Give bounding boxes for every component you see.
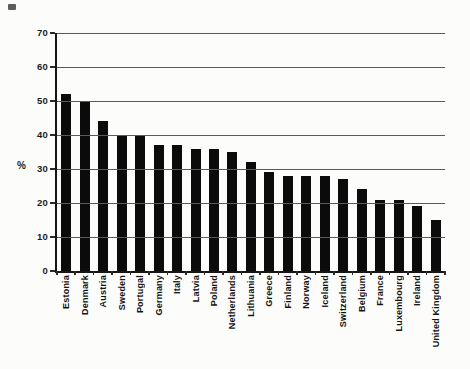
bar-chart-figure: % 010203040506070 EstoniaDenmarkAustriaS… <box>0 0 470 369</box>
y-tick-label-40: 40 <box>0 129 48 141</box>
category-label-lithuania: Lithuania <box>246 275 256 317</box>
category-label-united-kingdom: United Kingdom <box>431 275 441 347</box>
bar-slot <box>334 33 352 271</box>
bar-slot <box>131 33 149 271</box>
y-tick-60 <box>50 66 55 68</box>
bar-italy <box>172 145 182 271</box>
category-label-latvia: Latvia <box>191 275 201 302</box>
y-tick-label-10: 10 <box>0 231 48 243</box>
bar-slot <box>260 33 278 271</box>
y-tick-label-0: 0 <box>0 265 48 277</box>
bar-slot <box>57 33 75 271</box>
gridline-60 <box>57 67 445 68</box>
category-slot: Lithuania <box>242 275 260 317</box>
category-slot: Ireland <box>408 275 426 306</box>
bar-belgium <box>357 189 367 271</box>
gridline-70 <box>57 33 445 34</box>
category-slot: Greece <box>260 275 278 307</box>
bar-slot <box>353 33 371 271</box>
bar-slot <box>94 33 112 271</box>
bar-slot <box>205 33 223 271</box>
y-tick-0 <box>50 270 55 272</box>
bar-france <box>375 200 385 271</box>
category-label-belgium: Belgium <box>357 275 367 312</box>
bar-slot <box>371 33 389 271</box>
category-slot: Luxembourg <box>389 275 407 332</box>
category-label-austria: Austria <box>98 275 108 307</box>
category-slot: United Kingdom <box>426 275 444 347</box>
bar-slot <box>75 33 93 271</box>
category-slot: Germany <box>149 275 167 315</box>
category-slot: Sweden <box>112 275 130 310</box>
category-label-switzerland: Switzerland <box>338 275 348 327</box>
bar-ireland <box>412 206 422 271</box>
category-slot: Italy <box>168 275 186 294</box>
plot-area <box>55 33 445 273</box>
bar-slot <box>112 33 130 271</box>
bar-denmark <box>80 101 90 271</box>
category-slot: Switzerland <box>334 275 352 327</box>
bar-slot <box>389 33 407 271</box>
bar-slot <box>279 33 297 271</box>
gridline-30 <box>57 169 445 170</box>
y-tick-40 <box>50 134 55 136</box>
bar-slot <box>168 33 186 271</box>
gridline-40 <box>57 135 445 136</box>
bar-slot <box>223 33 241 271</box>
category-label-sweden: Sweden <box>117 275 127 310</box>
y-tick-10 <box>50 236 55 238</box>
category-label-poland: Poland <box>209 275 219 306</box>
bars-container <box>57 33 445 271</box>
category-slot: Latvia <box>186 275 204 302</box>
scan-artifact-mark <box>8 4 16 10</box>
y-tick-label-20: 20 <box>0 197 48 209</box>
bar-lithuania <box>246 162 256 271</box>
bar-slot <box>408 33 426 271</box>
bar-slot <box>186 33 204 271</box>
gridline-50 <box>57 101 445 102</box>
bar-switzerland <box>338 179 348 271</box>
bar-united-kingdom <box>431 220 441 271</box>
category-slot: Iceland <box>316 275 334 307</box>
y-tick-70 <box>50 32 55 34</box>
y-tick-label-70: 70 <box>0 27 48 39</box>
bar-poland <box>209 149 219 271</box>
category-label-france: France <box>375 275 385 306</box>
category-slot: Estonia <box>57 275 75 309</box>
bar-slot <box>242 33 260 271</box>
category-label-estonia: Estonia <box>61 275 71 309</box>
category-label-denmark: Denmark <box>80 275 90 315</box>
category-label-italy: Italy <box>172 275 182 294</box>
category-slot: Belgium <box>353 275 371 312</box>
y-tick-label-30: 30 <box>0 163 48 175</box>
category-label-luxembourg: Luxembourg <box>394 275 404 332</box>
bar-slot <box>297 33 315 271</box>
y-axis-labels: 010203040506070 <box>0 33 48 271</box>
category-label-ireland: Ireland <box>412 275 422 306</box>
category-slot: Denmark <box>75 275 93 315</box>
bar-norway <box>301 176 311 271</box>
bar-austria <box>98 121 108 271</box>
category-label-finland: Finland <box>283 275 293 308</box>
bar-germany <box>154 145 164 271</box>
category-label-greece: Greece <box>264 275 274 307</box>
x-axis-labels: EstoniaDenmarkAustriaSwedenPortugalGerma… <box>57 275 445 369</box>
bar-latvia <box>191 149 201 271</box>
gridline-20 <box>57 203 445 204</box>
gridline-10 <box>57 237 445 238</box>
y-tick-50 <box>50 100 55 102</box>
y-tick-20 <box>50 202 55 204</box>
y-tick-30 <box>50 168 55 170</box>
category-label-portugal: Portugal <box>135 275 145 313</box>
category-slot: Portugal <box>131 275 149 313</box>
category-slot: Netherlands <box>223 275 241 329</box>
category-slot: France <box>371 275 389 306</box>
bar-luxembourg <box>394 200 404 271</box>
bar-slot <box>426 33 444 271</box>
bar-greece <box>264 172 274 271</box>
bar-estonia <box>61 94 71 271</box>
category-label-iceland: Iceland <box>320 275 330 307</box>
y-tick-label-60: 60 <box>0 61 48 73</box>
bar-slot <box>149 33 167 271</box>
category-slot: Finland <box>279 275 297 308</box>
